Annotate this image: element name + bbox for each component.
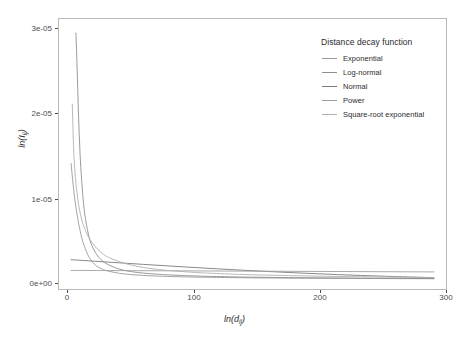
y-tick-label-2e-05: 2e-05 bbox=[0, 109, 52, 118]
legend-swatch-log-normal bbox=[321, 67, 338, 78]
legend-label-exponential: Exponential bbox=[343, 54, 383, 63]
y-tick-label-1e-05: 1e-05 bbox=[0, 195, 52, 204]
series-line-exponential bbox=[71, 163, 434, 278]
legend-label-square-root-exponential: Square-root exponential bbox=[343, 110, 424, 119]
x-axis-title-close: ) bbox=[242, 314, 245, 324]
y-tick-label-3e-05: 3e-05 bbox=[0, 24, 52, 33]
x-tick-mark-0 bbox=[67, 290, 68, 293]
legend-title: Distance decay function bbox=[321, 37, 445, 47]
legend-label-log-normal: Log-normal bbox=[343, 68, 381, 77]
y-axis-title-base: ln(I bbox=[17, 135, 27, 148]
legend-label-normal: Normal bbox=[343, 82, 367, 91]
y-axis-title-sub: ij bbox=[21, 132, 28, 135]
legend-item-normal[interactable]: Normal bbox=[321, 80, 445, 93]
legend-item-exponential[interactable]: Exponential bbox=[321, 52, 445, 65]
legend-label-power: Power bbox=[343, 96, 365, 105]
y-tick-label-0e00: 0e+00 bbox=[0, 279, 52, 288]
x-tick-label-100: 100 bbox=[174, 293, 214, 302]
legend-swatch-normal bbox=[321, 81, 338, 92]
series-line-square-root-exponential bbox=[72, 104, 434, 277]
x-tick-label-200: 200 bbox=[300, 293, 340, 302]
x-tick-mark-300 bbox=[446, 290, 447, 293]
legend-swatch-exponential bbox=[321, 53, 338, 64]
legend-swatch-power bbox=[321, 95, 338, 106]
plot-panel: Distance decay function Exponential Log-… bbox=[58, 18, 447, 290]
legend-item-square-root-exponential[interactable]: Square-root exponential bbox=[321, 108, 445, 121]
x-axis-title-base: ln(d bbox=[224, 314, 239, 324]
legend-item-log-normal[interactable]: Log-normal bbox=[321, 66, 445, 79]
y-axis-title-close: ) bbox=[17, 129, 27, 132]
legend: Distance decay function Exponential Log-… bbox=[321, 37, 445, 122]
x-axis-title: ln(dij) bbox=[0, 314, 469, 325]
legend-swatch-square-root-exponential bbox=[321, 109, 338, 120]
y-axis-title: ln(Iij) bbox=[17, 119, 28, 159]
x-tick-label-0: 0 bbox=[47, 293, 87, 302]
chart-figure: 3e-05 2e-05 1e-05 0e+00 0 100 200 300 ln… bbox=[0, 0, 469, 340]
legend-item-power[interactable]: Power bbox=[321, 94, 445, 107]
x-tick-mark-200 bbox=[320, 290, 321, 293]
x-tick-label-300: 300 bbox=[426, 293, 466, 302]
x-tick-mark-100 bbox=[194, 290, 195, 293]
